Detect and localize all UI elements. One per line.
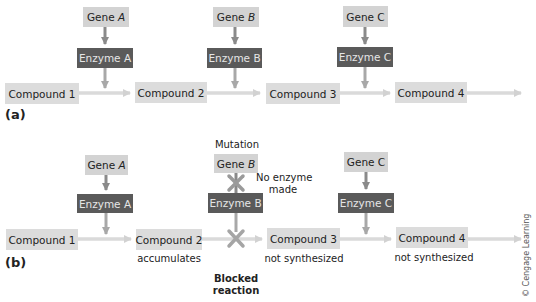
- compound-3-note: not synthesized: [260, 253, 348, 264]
- compound-label: Compound 4: [397, 87, 464, 99]
- gene-letter: B: [248, 11, 255, 23]
- enzyme-c-box-b: Enzyme C: [338, 193, 394, 213]
- compound-2-note: accumulates: [129, 253, 209, 264]
- compound-label: Compound 3: [269, 88, 336, 100]
- gene-label: Gene: [87, 159, 118, 171]
- enzyme-label: Enzyme A: [79, 198, 131, 210]
- gene-letter: C: [377, 11, 384, 23]
- gene-b-box-b: Gene B: [214, 154, 258, 173]
- enzyme-a-box: Enzyme A: [77, 48, 133, 68]
- gene-label: Gene: [346, 11, 377, 23]
- panel-b-label: (b): [5, 255, 26, 270]
- enzyme-label: Enzyme B: [208, 52, 260, 64]
- compound-3-box-b: Compound 3: [267, 228, 340, 249]
- gene-a-box-b: Gene A: [85, 155, 128, 175]
- gene-letter: A: [118, 11, 125, 23]
- compound-label: Compound 1: [8, 88, 75, 100]
- gene-label: Gene: [347, 156, 378, 168]
- compound-label: Compound 2: [137, 87, 204, 99]
- enzyme-b-box: Enzyme B: [207, 48, 262, 68]
- enzyme-c-box: Enzyme C: [337, 47, 393, 67]
- gene-b-box: Gene B: [213, 7, 259, 27]
- gene-letter: B: [248, 158, 255, 170]
- compound-4-box-b: Compound 4: [396, 227, 468, 248]
- enzyme-label: Enzyme C: [339, 51, 391, 63]
- enzyme-a-box-b: Enzyme A: [77, 194, 133, 213]
- enzyme-label: Enzyme B: [209, 197, 261, 209]
- enzyme-b-box-b: Enzyme B: [208, 193, 263, 213]
- no-enzyme-line2: made: [256, 184, 310, 196]
- copyright-text: © Cengage Learning: [522, 214, 531, 297]
- compound-2-box: Compound 2: [135, 82, 207, 103]
- compound-1-box: Compound 1: [5, 83, 79, 104]
- gene-c-box: Gene C: [343, 6, 388, 27]
- enzyme-label: Enzyme C: [340, 197, 392, 209]
- gene-letter: C: [378, 156, 385, 168]
- compound-label: Compound 2: [135, 234, 202, 246]
- gene-label: Gene: [217, 158, 248, 170]
- compound-label: Compound 4: [398, 232, 465, 244]
- gene-label: Gene: [217, 11, 248, 23]
- gene-c-box-b: Gene C: [344, 152, 388, 172]
- enzyme-label: Enzyme A: [79, 52, 131, 64]
- mutation-label: Mutation: [210, 139, 264, 150]
- blocked-reaction-label: Blocked reaction: [206, 273, 266, 297]
- compound-label: Compound 3: [270, 233, 337, 245]
- compound-4-box: Compound 4: [395, 82, 467, 103]
- compound-2-box-b: Compound 2: [136, 229, 202, 250]
- gene-label: Gene: [87, 11, 118, 23]
- no-enzyme-line1: No enzyme: [256, 172, 310, 184]
- compound-4-note: not synthesized: [390, 252, 478, 263]
- compound-3-box: Compound 3: [266, 83, 340, 104]
- blocked-line2: reaction: [206, 285, 266, 297]
- no-enzyme-note: No enzyme made: [256, 172, 310, 196]
- gene-letter: A: [118, 159, 125, 171]
- compound-label: Compound 1: [8, 234, 75, 246]
- panel-a-label: (a): [5, 107, 26, 122]
- blocked-line1: Blocked: [206, 273, 266, 285]
- gene-a-box: Gene A: [83, 7, 129, 27]
- compound-1-box-b: Compound 1: [6, 229, 78, 250]
